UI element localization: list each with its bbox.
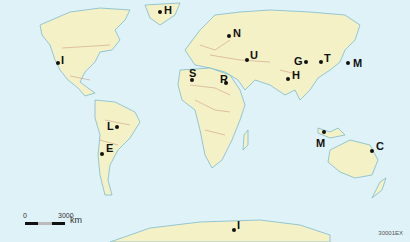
location-marker-dot [304,60,308,64]
location-marker-label: C [376,141,384,152]
location-marker-dot [115,125,119,129]
location-marker-label: N [233,28,241,39]
location-marker-label: M [353,58,362,69]
location-marker-dot [322,130,326,134]
location-marker-dot [319,60,323,64]
location-marker-dot [158,10,162,14]
location-marker-label: H [292,70,300,81]
scale-unit-label: km [70,215,82,225]
location-marker-label: S [189,68,196,79]
location-marker-label: L [107,121,114,132]
location-marker-label: E [106,143,113,154]
map-base [0,0,410,242]
scale-start-label: 0 [23,212,27,219]
location-marker-label: U [250,50,258,61]
location-marker-dot [232,228,236,232]
map-code: 30001EX [378,230,403,236]
location-marker-label: T [324,53,331,64]
scale-bar-graphic [25,222,65,225]
location-marker-label: G [294,56,303,67]
location-marker-dot [56,61,60,65]
location-marker-label: I [237,220,240,231]
location-marker-dot [370,149,374,153]
location-marker-dot [227,34,231,38]
world-map: HINSURGTMHLEMCI 0 3000 km 30001EX [0,0,410,242]
location-marker-label: I [61,55,64,66]
location-marker-label: M [316,138,325,149]
location-marker-label: R [220,74,228,85]
location-marker-dot [286,77,290,81]
location-marker-label: H [164,5,172,16]
location-marker-dot [245,58,249,62]
location-marker-dot [100,152,104,156]
location-marker-dot [346,61,350,65]
